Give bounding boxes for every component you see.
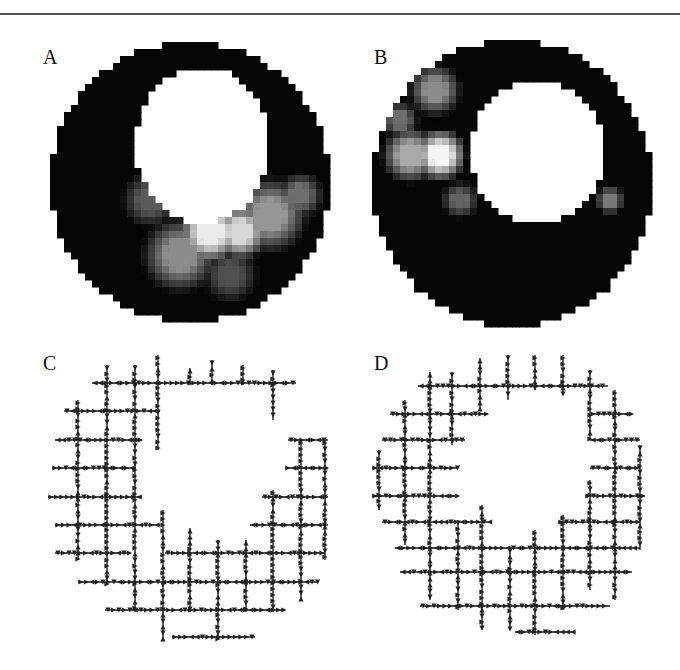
figure-canvas	[0, 0, 680, 670]
panel-a-intensity-map	[50, 42, 331, 323]
panel-c-vector-grid	[48, 355, 329, 642]
panel-label-d: D	[374, 352, 388, 375]
panel-label-c: C	[43, 352, 56, 375]
panel-d-vector-grid	[372, 355, 646, 635]
panel-b-intensity-map	[372, 40, 653, 328]
panel-label-b: B	[374, 46, 387, 69]
panel-label-a: A	[43, 46, 57, 69]
